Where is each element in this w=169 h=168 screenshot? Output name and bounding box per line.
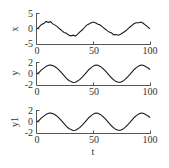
- ylabel-y1: y1: [9, 117, 20, 127]
- panel-y: y 2 0 -2 0 50 100: [9, 57, 158, 97]
- line-series-y1: [37, 113, 150, 131]
- xtick-label-100: 100: [143, 45, 158, 56]
- xtick-label-100: 100: [143, 134, 158, 145]
- line-series-x: [37, 21, 150, 36]
- ytick-label-bot: -2: [25, 127, 33, 138]
- panel-y1: y1 2 0 -2 0 50 100 t: [9, 105, 158, 157]
- ytick-label-top: 2: [28, 105, 33, 116]
- panel-x: x 5 0 -5 0 50 100: [9, 8, 158, 56]
- xtick-label-50: 50: [89, 134, 99, 145]
- ytick-label-mid: 0: [28, 68, 33, 79]
- tick-marks: [37, 14, 151, 45]
- ytick-label-top: 5: [28, 8, 33, 19]
- ytick-label-bot: -2: [25, 79, 33, 90]
- ytick-label-mid: 0: [28, 23, 33, 34]
- xtick-label-100: 100: [143, 86, 158, 97]
- xtick-label-50: 50: [89, 86, 99, 97]
- ytick-label-bot: -5: [25, 38, 33, 49]
- axes-frame: [37, 13, 151, 45]
- xlabel-t: t: [92, 146, 95, 157]
- line-series-y: [37, 65, 150, 83]
- ytick-label-top: 2: [28, 57, 33, 68]
- ylabel-y: y: [9, 71, 20, 76]
- ylabel-x: x: [9, 27, 20, 32]
- xtick-label-0: 0: [35, 134, 40, 145]
- ytick-label-mid: 0: [28, 116, 33, 127]
- xtick-label-50: 50: [89, 45, 99, 56]
- xtick-label-0: 0: [35, 86, 40, 97]
- figure: x 5 0 -5 0 50 100 y 2 0 -2 0 50 100 y1 2…: [0, 0, 169, 168]
- xtick-label-0: 0: [35, 45, 40, 56]
